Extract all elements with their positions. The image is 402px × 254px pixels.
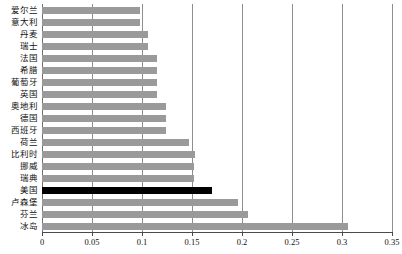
bar bbox=[42, 19, 140, 26]
category-label: 葡萄牙 bbox=[11, 76, 38, 88]
bar bbox=[42, 115, 166, 122]
bar bbox=[42, 187, 212, 194]
bar bbox=[42, 223, 348, 230]
category-label: 西班牙 bbox=[11, 124, 38, 136]
x-tick bbox=[342, 232, 343, 236]
category-label: 芬兰 bbox=[20, 208, 38, 220]
category-label: 冰岛 bbox=[20, 220, 38, 232]
x-tick-label: 0.05 bbox=[85, 237, 100, 247]
bar bbox=[42, 139, 189, 146]
category-label: 意大利 bbox=[11, 16, 38, 28]
category-label: 爱尔兰 bbox=[11, 4, 38, 16]
x-tick-label: 0.35 bbox=[385, 237, 400, 247]
x-tick bbox=[392, 232, 393, 236]
bar bbox=[42, 151, 195, 158]
bar bbox=[42, 67, 157, 74]
bar bbox=[42, 43, 148, 50]
category-label: 希腊 bbox=[20, 64, 38, 76]
x-tick-label: 0.1 bbox=[137, 237, 148, 247]
x-tick-label: 0.25 bbox=[285, 237, 300, 247]
category-label: 荷兰 bbox=[20, 136, 38, 148]
x-tick bbox=[242, 232, 243, 236]
category-label: 卢森堡 bbox=[11, 196, 38, 208]
bar bbox=[42, 79, 157, 86]
gridline-0.3 bbox=[342, 4, 343, 232]
bar bbox=[42, 55, 157, 62]
bar bbox=[42, 103, 166, 110]
category-label: 瑞典 bbox=[20, 172, 38, 184]
x-tick bbox=[92, 232, 93, 236]
x-tick-label: 0 bbox=[40, 237, 44, 247]
x-tick-label: 0.15 bbox=[185, 237, 200, 247]
bar bbox=[42, 31, 148, 38]
bar-chart: 爱尔兰意大利丹麦瑞士法国希腊葡萄牙英国奥地利德国西班牙荷兰比利时挪威瑞典美国卢森… bbox=[0, 0, 402, 254]
x-tick bbox=[192, 232, 193, 236]
x-tick bbox=[42, 232, 43, 236]
gridline-0.2 bbox=[242, 4, 243, 232]
x-axis-line bbox=[42, 232, 392, 233]
category-label: 美国 bbox=[20, 184, 38, 196]
category-label: 法国 bbox=[20, 52, 38, 64]
bar bbox=[42, 199, 238, 206]
category-label: 挪威 bbox=[20, 160, 38, 172]
category-label: 比利时 bbox=[11, 148, 38, 160]
bar bbox=[42, 91, 157, 98]
bar bbox=[42, 7, 140, 14]
x-tick bbox=[292, 232, 293, 236]
category-axis-labels: 爱尔兰意大利丹麦瑞士法国希腊葡萄牙英国奥地利德国西班牙荷兰比利时挪威瑞典美国卢森… bbox=[0, 4, 40, 232]
category-label: 德国 bbox=[20, 112, 38, 124]
gridline-0.35 bbox=[392, 4, 393, 232]
bar bbox=[42, 163, 194, 170]
x-tick-label: 0.3 bbox=[337, 237, 348, 247]
category-label: 丹麦 bbox=[20, 28, 38, 40]
bar bbox=[42, 211, 248, 218]
category-label: 瑞士 bbox=[20, 40, 38, 52]
category-label: 英国 bbox=[20, 88, 38, 100]
plot-area bbox=[42, 4, 392, 232]
category-label: 奥地利 bbox=[11, 100, 38, 112]
x-tick-label: 0.2 bbox=[237, 237, 248, 247]
bar bbox=[42, 175, 194, 182]
x-tick bbox=[142, 232, 143, 236]
bar bbox=[42, 127, 166, 134]
gridline-0.25 bbox=[292, 4, 293, 232]
